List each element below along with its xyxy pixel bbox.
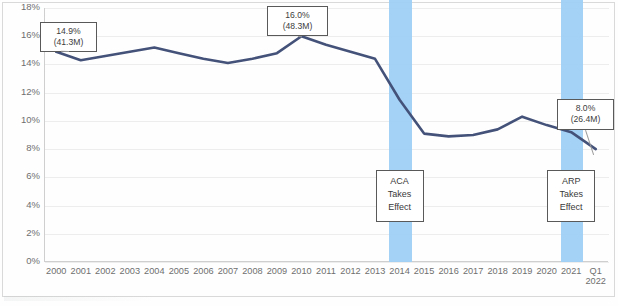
y-tick-16: 16%	[2, 30, 40, 40]
y-tick-4: 4%	[2, 200, 40, 210]
callout-q1-2022: 8.0% (26.4M)	[557, 99, 614, 130]
arp-event-line3: Effect	[551, 201, 591, 214]
y-tick-14: 14%	[2, 58, 40, 68]
y-tick-10: 10%	[2, 115, 40, 125]
callout-2000-count: (41.3M)	[45, 37, 92, 48]
y-tick-8: 8%	[2, 143, 40, 153]
gridline-0	[45, 262, 609, 263]
callout-2010-percent: 16.0%	[272, 10, 323, 21]
arp-event-line1: ARP	[551, 175, 591, 188]
callout-2010: 16.0% (48.3M)	[267, 6, 328, 36]
series-line-uninsured-rate	[44, 8, 608, 262]
x-tick-q1-2022: Q12022	[579, 266, 612, 286]
x-tick-q1-line1: Q1	[579, 266, 612, 276]
arp-event-label: ARP Takes Effect	[547, 170, 595, 222]
x-axis-labels: 2000200120022003200420052006200720082009…	[44, 266, 608, 300]
scan-artifact	[4, 296, 154, 301]
co-first-leader-line	[60, 51, 68, 52]
callout-q1-2022-percent: 8.0%	[562, 103, 609, 114]
y-tick-18: 18%	[2, 2, 40, 12]
aca-event-label: ACA Takes Effect	[376, 170, 424, 222]
co-peak-leader-line	[297, 36, 301, 37]
y-tick-0: 0%	[2, 256, 40, 266]
y-axis-labels: 18%16%14%12%10%8%6%4%2%0%	[0, 0, 40, 262]
chart-root: 18%16%14%12%10%8%6%4%2%0% 20002001200220…	[0, 0, 618, 306]
callout-q1-2022-count: (26.4M)	[562, 114, 609, 125]
callout-2000: 14.9% (41.3M)	[40, 22, 97, 52]
y-tick-12: 12%	[2, 87, 40, 97]
series-polyline	[56, 36, 595, 149]
callout-2010-count: (48.3M)	[272, 21, 323, 32]
x-tick-q1-line2: 2022	[579, 276, 612, 286]
y-tick-2: 2%	[2, 228, 40, 238]
aca-event-line2: Takes	[380, 188, 420, 201]
aca-event-line1: ACA	[380, 175, 420, 188]
y-tick-6: 6%	[2, 171, 40, 181]
arp-event-line2: Takes	[551, 188, 591, 201]
callout-2000-percent: 14.9%	[45, 26, 92, 37]
aca-event-line3: Effect	[380, 201, 420, 214]
